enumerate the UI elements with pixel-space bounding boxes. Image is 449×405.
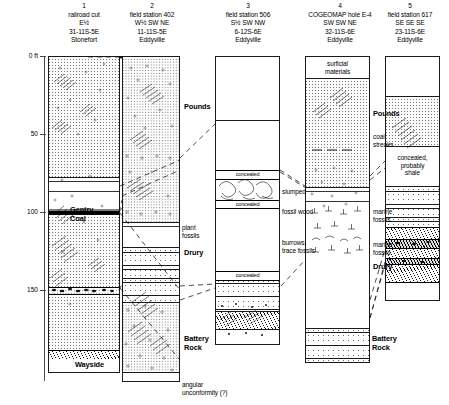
column-name: field station 506 xyxy=(201,11,295,19)
column-number: 2 xyxy=(108,2,196,10)
depth-axis-line xyxy=(44,56,45,381)
column-header-3: 3 field station 506 S½ SW NW 6-12S-6E Ed… xyxy=(201,2,295,44)
column-location-line-1: SE SE SE xyxy=(371,19,449,27)
column-location-line-2: 23-11S-6E xyxy=(371,28,449,36)
column-number: 5 xyxy=(371,2,449,10)
unit-shale xyxy=(306,253,369,328)
unit-sandstone xyxy=(49,214,119,287)
unit-silty-shale xyxy=(123,247,179,302)
stratigraphic-correlation-figure: 1 railroad cut E½ 31-11S-5E Stonefort 2 … xyxy=(0,0,449,405)
column-header-2: 2 field station 402 W½ SW NE 11-11S-5E E… xyxy=(108,2,196,44)
formation-label-pounds-col4: Pounds xyxy=(373,110,415,119)
formation-label-drury-col4: Drury xyxy=(373,263,415,272)
datum-dash-col1-col2 xyxy=(120,56,122,57)
depth-tick-100: 100 xyxy=(2,208,38,215)
angular-unconformity-label: angular unconformity (?) xyxy=(182,381,252,396)
unit-shale-burrowed xyxy=(216,231,279,271)
column-location-line-2: 6-12S-6E xyxy=(201,28,295,36)
marine-fossils-label-upper: marine fossils xyxy=(373,208,415,223)
formation-label-drury-col2: Drury xyxy=(184,249,224,258)
unit-hachured-beds xyxy=(216,311,279,329)
unit-unconformity-base xyxy=(123,372,179,382)
unit-siltstone xyxy=(49,177,119,192)
unit-conglomerate-wayside xyxy=(49,287,119,295)
concealed-label-2: concealed xyxy=(216,200,279,209)
column-quadrangle: Eddyville xyxy=(108,36,196,44)
burrows-trace-fossils-label: burrows, trace fossils xyxy=(282,239,330,254)
unit-slumped-beds xyxy=(216,178,279,200)
column-location-line-1: W½ SW NE xyxy=(108,19,196,27)
depth-tick-mark-100 xyxy=(40,212,46,213)
coal-streaks-label: coal streaks xyxy=(373,133,413,148)
column-number: 3 xyxy=(201,2,295,10)
fossil-wood-label: fossil wood xyxy=(282,208,328,216)
unit-shale-plant-fossils xyxy=(123,235,179,247)
bed-label-gentry-coal: Gentry Coal xyxy=(70,206,116,223)
slumped-label: slumped xyxy=(282,188,322,196)
unit-hachured-beds xyxy=(49,350,119,359)
unit-shale-fossil-wood xyxy=(216,207,279,231)
concealed-label-3: concealed xyxy=(216,271,279,281)
column-name: field station 402 xyxy=(108,11,196,19)
unit-conglomeratic-sandstone xyxy=(123,302,179,372)
unit-sandstone xyxy=(49,57,119,177)
formation-label-battery-rock-col4: Battery Rock xyxy=(372,335,412,352)
column-header-5: 5 field station 617 SE SE SE 23-11S-6E E… xyxy=(371,2,449,44)
strat-column-3: concealed concealed concealed xyxy=(215,56,280,345)
strat-column-2 xyxy=(122,56,180,382)
plant-fossils-label: plant fossils xyxy=(182,224,222,239)
depth-tick-mark-150 xyxy=(40,290,46,291)
formation-label-battery-rock-col2: Battery Rock xyxy=(184,335,224,352)
depth-tick-mark-0 xyxy=(40,56,46,57)
column-name: field station 617 xyxy=(371,11,449,19)
unit-covered-base xyxy=(216,329,279,345)
formation-label-pounds-col2: Pounds xyxy=(184,103,224,112)
depth-tick-0: 0 ft xyxy=(2,52,38,59)
concealed-probably-shale-label: concealed, probably shale xyxy=(386,154,439,177)
surficial-materials-label: surficial materials xyxy=(306,60,369,75)
unit-silty-shale xyxy=(216,279,279,311)
bed-label-wayside: Wayside xyxy=(75,361,121,370)
concealed-label-1: concealed xyxy=(216,170,279,180)
unit-siltstone xyxy=(123,222,179,235)
marine-fossils-label-lower: marine fossils xyxy=(373,241,415,256)
unit-covered-top xyxy=(386,57,439,96)
unit-sandstone xyxy=(49,295,119,350)
depth-tick-50: 50 xyxy=(2,130,38,137)
depth-tick-150: 150 xyxy=(2,286,38,293)
unit-shale xyxy=(216,120,279,170)
unit-pebbly-sandstone xyxy=(123,57,179,222)
unit-base xyxy=(386,282,439,301)
column-quadrangle: Eddyville xyxy=(201,36,295,44)
unit-hachured-beds-upper xyxy=(386,227,439,239)
unit-sandstone xyxy=(306,79,369,187)
column-location-line-1: S½ SW NW xyxy=(201,19,295,27)
unit-covered xyxy=(216,57,279,120)
column-quadrangle: Eddyville xyxy=(371,36,449,44)
depth-tick-mark-50 xyxy=(40,134,46,135)
column-location-line-2: 11-11S-5E xyxy=(108,28,196,36)
unit-silty-shale xyxy=(306,328,369,363)
